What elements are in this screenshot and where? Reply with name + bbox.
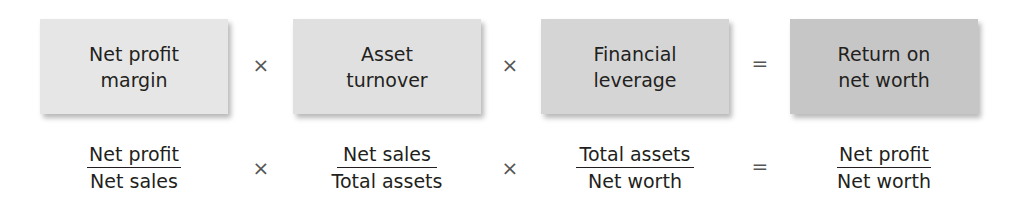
box-financial-leverage: Financialleverage (541, 19, 729, 114)
box-label-line1: Return on (838, 41, 931, 67)
denominator: Net worth (588, 168, 682, 193)
box-return-on-net-worth: Return onnet worth (790, 19, 978, 114)
box-label-line2: net worth (838, 67, 931, 93)
multiply-operator: × (246, 156, 276, 180)
denominator: Net worth (837, 168, 931, 193)
box-label-line1: Asset (346, 41, 427, 67)
multiply-operator: × (246, 53, 276, 77)
fraction-asset-turnover: Net sales Total assets (293, 142, 481, 193)
equals-operator: = (745, 154, 775, 178)
box-net-profit-margin: Net profitmargin (40, 19, 228, 114)
fraction-return-on-net-worth: Net profit Net worth (790, 142, 978, 193)
numerator: Net profit (87, 142, 181, 168)
box-label-line1: Net profit (89, 41, 179, 67)
box-label-line2: leverage (593, 67, 676, 93)
box-label-line1: Financial (593, 41, 676, 67)
numerator: Net sales (337, 142, 437, 168)
multiply-operator: × (495, 53, 525, 77)
box-label-line2: turnover (346, 67, 427, 93)
multiply-operator: × (495, 156, 525, 180)
box-label-line2: margin (89, 67, 179, 93)
denominator: Total assets (332, 168, 443, 193)
denominator: Net sales (90, 168, 178, 193)
numerator: Total assets (576, 142, 695, 168)
fraction-financial-leverage: Total assets Net worth (541, 142, 729, 193)
fraction-net-profit-margin: Net profit Net sales (40, 142, 228, 193)
box-asset-turnover: Assetturnover (293, 19, 481, 114)
numerator: Net profit (837, 142, 931, 168)
equals-operator: = (745, 51, 775, 75)
